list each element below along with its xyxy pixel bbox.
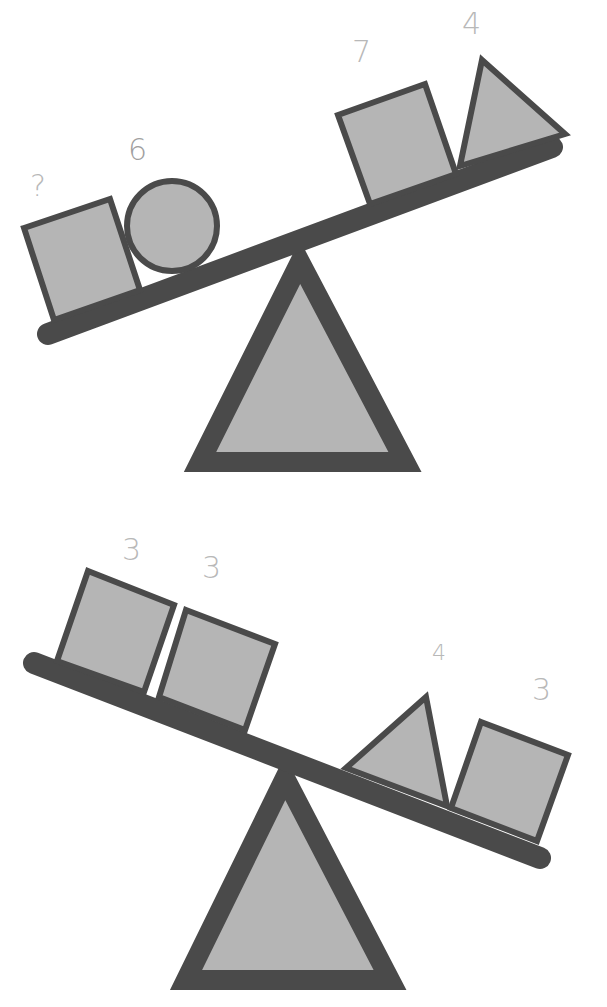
- bottom-right-triangle-label: 4: [432, 640, 446, 665]
- bottom-seesaw: 3 3 4 3: [34, 532, 568, 980]
- top-left-square-label: ?: [30, 168, 46, 203]
- top-fulcrum: [200, 262, 405, 462]
- bottom-left-square-1-label: 3: [122, 532, 141, 567]
- top-right-square-label: 7: [352, 34, 371, 69]
- top-seesaw: ? 6 7 4: [24, 6, 565, 462]
- top-left-circle: [127, 181, 217, 271]
- top-right-triangle-label: 4: [462, 6, 481, 41]
- top-left-circle-label: 6: [128, 132, 147, 167]
- bottom-right-square-label: 3: [532, 672, 551, 707]
- seesaw-diagram: ? 6 7 4 3 3 4 3: [0, 0, 607, 1007]
- bottom-left-square-2-label: 3: [202, 550, 221, 585]
- bottom-fulcrum: [186, 778, 390, 980]
